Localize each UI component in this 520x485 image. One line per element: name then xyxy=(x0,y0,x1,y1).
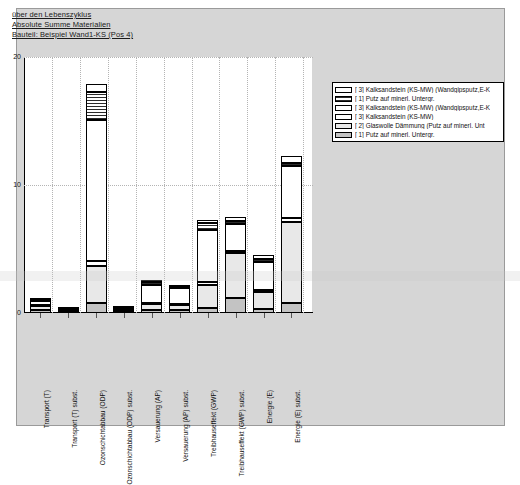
bar-segment xyxy=(281,303,302,313)
bar-segment xyxy=(225,217,246,221)
bar[interactable] xyxy=(197,220,218,313)
bar-segment xyxy=(169,305,190,311)
bar-segment xyxy=(225,224,246,251)
x-tick xyxy=(208,313,209,318)
bar-segment xyxy=(86,261,107,267)
legend-item[interactable]: [ 3] Kalksandstein (KS-MW) xyxy=(335,112,501,121)
bar-segment xyxy=(253,292,274,309)
title-line-1: über den Lebenszyklus xyxy=(12,10,202,20)
legend-label: [ 2] Glaswolle Dämmung (Putz auf minerl.… xyxy=(355,122,485,129)
x-tick xyxy=(96,313,97,318)
legend-swatch xyxy=(335,132,352,138)
bar-segment xyxy=(86,303,107,313)
legend-label: [ 3] Kalksandstein (KS-MW) xyxy=(355,113,434,120)
bar-segment xyxy=(86,84,107,92)
bar-segment xyxy=(141,285,162,302)
legend-label: [ 1] Putz auf minerl. Untergr. xyxy=(355,131,435,138)
bar-segment xyxy=(197,282,218,285)
legend-item[interactable]: [ 3] Kalksandstein (KS-MW) (Wandgipsputz… xyxy=(335,85,501,94)
bar-segment xyxy=(86,120,107,261)
chart-legend[interactable]: [ 3] Kalksandstein (KS-MW) (Wandgipsputz… xyxy=(332,82,504,142)
bar-segment xyxy=(253,259,274,261)
x-tick xyxy=(236,313,237,318)
bar-segment xyxy=(197,285,218,308)
bar-segment xyxy=(225,221,246,224)
bar-segment xyxy=(197,223,218,230)
legend-label: [ 3] Kalksandstein (KS-MW) (Wandgipsputz… xyxy=(355,104,490,111)
bar-segment xyxy=(141,304,162,310)
bar-segment xyxy=(281,156,302,163)
bar-segment xyxy=(169,285,190,287)
bar-segment xyxy=(86,92,107,120)
bar[interactable] xyxy=(141,280,162,313)
bar-segment xyxy=(253,290,274,292)
x-tick xyxy=(68,313,69,318)
legend-swatch xyxy=(335,105,352,111)
x-tick-label: Energie (E) xyxy=(266,390,273,423)
bar[interactable] xyxy=(281,156,302,313)
x-tick xyxy=(291,313,292,318)
legend-swatch xyxy=(335,123,352,129)
bar-segment xyxy=(30,298,51,300)
y-tick-label: 0 xyxy=(3,309,21,316)
legend-label: [ 3] Kalksandstein (KS-MW) (Wandgipsputz… xyxy=(355,86,490,93)
bar-segment xyxy=(30,306,51,310)
x-tick-label: Versauerung (AP) subst. xyxy=(182,390,189,462)
legend-item[interactable]: [ 3] Kalksandstein (KS-MW) (Wandgipsputz… xyxy=(335,103,501,112)
gridline-horizontal xyxy=(24,57,313,58)
x-tick xyxy=(264,313,265,318)
x-tick xyxy=(40,313,41,318)
bar-segment xyxy=(113,306,134,308)
x-tick-label: Energie (E) subst. xyxy=(294,390,301,443)
y-tick-label: 20 xyxy=(3,53,21,60)
x-tick xyxy=(124,313,125,318)
x-tick-label: Treibhauseffekt (GWP) xyxy=(210,390,217,457)
bar-segment xyxy=(141,282,162,285)
legend-item[interactable]: [ 1] Putz auf minerl. Untergr. xyxy=(335,130,501,139)
x-tick-label: Versauerung (AP) xyxy=(154,390,161,442)
legend-swatch xyxy=(335,96,352,102)
bar[interactable] xyxy=(30,298,51,313)
legend-swatch xyxy=(335,87,352,93)
bar-segment xyxy=(225,298,246,313)
legend-label: [ 1] Putz auf minerl. Untergr. xyxy=(355,95,435,102)
bar[interactable] xyxy=(169,285,190,313)
chart-title-block: über den Lebenszyklus Absolute Summe Mat… xyxy=(12,10,202,40)
bar-segment xyxy=(58,307,79,309)
title-line-3: Bauteil: Beispiel Wand1-KS (Pos 4) xyxy=(12,30,202,40)
bar[interactable] xyxy=(225,217,246,313)
x-tick-label: Treibhauseffekt (GWP) subst. xyxy=(238,390,245,476)
bar-segment xyxy=(281,163,302,166)
gridline-horizontal xyxy=(24,185,313,186)
legend-item[interactable]: [ 1] Putz auf minerl. Untergr. xyxy=(335,94,501,103)
bar-segment xyxy=(253,255,274,259)
x-tick xyxy=(152,313,153,318)
bar-segment xyxy=(30,301,51,305)
bar-segment xyxy=(281,222,302,303)
legend-swatch xyxy=(335,114,352,120)
legend-item[interactable]: [ 2] Glaswolle Dämmung (Putz auf minerl.… xyxy=(335,121,501,130)
bar-segment xyxy=(197,220,218,224)
bar-segment xyxy=(281,218,302,222)
y-tick-label: 10 xyxy=(3,181,21,188)
scan-band xyxy=(0,271,520,281)
bar-segment xyxy=(169,288,190,303)
bar[interactable] xyxy=(253,255,274,313)
bar-segment xyxy=(225,251,246,253)
x-tick-label: Transport (T) xyxy=(43,390,50,428)
x-tick-label: Transport (T) subst. xyxy=(71,390,78,448)
x-tick-label: Ozonschichtabbau (ODP) xyxy=(99,390,106,465)
bar-segment xyxy=(281,166,302,218)
x-tick-label: Ozonschichtabbau (ODP) subst. xyxy=(126,390,133,485)
title-line-2: Absolute Summe Materialien xyxy=(12,20,202,30)
x-tick xyxy=(180,313,181,318)
